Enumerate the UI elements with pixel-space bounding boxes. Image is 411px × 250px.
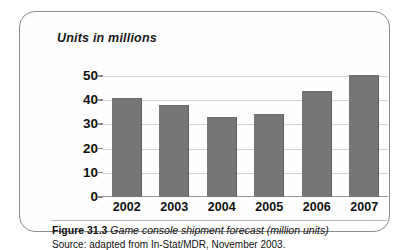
chart-title: Units in millions [57,31,157,45]
y-tick-label: 0 [64,190,98,204]
figure-number: Figure 31.3 [52,224,107,236]
bar [112,98,142,197]
figure-frame: Units in millions 01020304050 2002200320… [19,11,390,232]
gridline [103,76,388,77]
x-tick-label: 2003 [151,200,199,214]
y-axis: 01020304050 [60,64,98,197]
gridline [103,149,388,150]
gridline [103,100,388,101]
x-axis: 200220032004200520062007 [103,200,388,218]
y-tick-label: 10 [64,166,98,180]
x-tick-label: 2004 [198,200,246,214]
caption-divider [51,220,387,221]
caption-line: Figure 31.3 Game console shipment foreca… [52,224,392,237]
bar [207,117,237,197]
x-axis-baseline [103,196,388,198]
figure-caption-text: Game console shipment forecast (million … [107,224,328,236]
y-tick-label: 30 [64,118,98,132]
x-tick-label: 2006 [293,200,341,214]
gridline [103,124,388,125]
bar [159,105,189,197]
x-tick-label: 2002 [103,200,151,214]
y-tick-label: 50 [64,69,98,83]
x-tick-label: 2007 [341,200,389,214]
bar [302,91,332,197]
y-tick-label: 20 [64,142,98,156]
bar [254,114,284,197]
figure-source: Source: adapted from In-Stat/MDR, Novemb… [52,238,392,250]
figure-caption: Figure 31.3 Game console shipment foreca… [52,224,392,250]
plot-area [103,64,388,197]
y-tick-label: 40 [64,94,98,108]
gridline [103,173,388,174]
x-tick-label: 2005 [246,200,294,214]
bar [349,75,379,197]
